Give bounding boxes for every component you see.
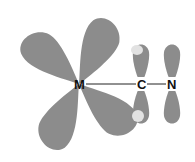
overlap-top xyxy=(131,45,143,55)
atom-label-m: M xyxy=(74,77,85,92)
orbital-diagram: M C N xyxy=(0,0,195,162)
orbital-svg: M C N xyxy=(0,0,195,162)
overlap-bottom xyxy=(132,110,144,122)
atom-label-c: C xyxy=(137,77,147,92)
atom-label-n: N xyxy=(167,77,176,92)
